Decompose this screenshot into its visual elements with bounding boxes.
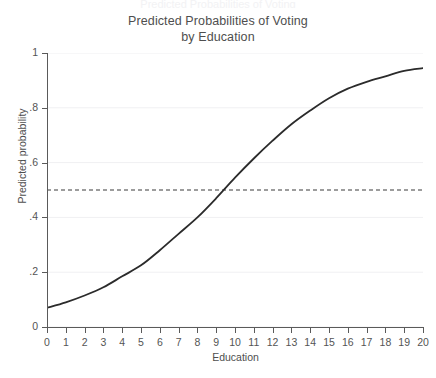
x-tick-mark-2 xyxy=(85,328,86,333)
y-axis-title: Predicted probability xyxy=(16,86,28,226)
y-tick-label-1: .2 xyxy=(8,265,38,277)
x-tick-mark-15 xyxy=(329,328,330,333)
plot-area xyxy=(47,53,423,327)
x-tick-mark-12 xyxy=(273,328,274,333)
x-axis-title: Education xyxy=(47,351,424,363)
y-tick-label-5: 1 xyxy=(8,46,38,58)
y-tick-mark-2 xyxy=(42,217,47,218)
clipped-header-text: Predicted Probabilities of Voting xyxy=(0,0,436,8)
y-tick-mark-5 xyxy=(42,53,47,54)
plot-canvas xyxy=(47,53,423,327)
x-tick-mark-11 xyxy=(254,328,255,333)
x-tick-mark-4 xyxy=(122,328,123,333)
y-tick-label-0: 0 xyxy=(8,320,38,332)
chart-figure: Predicted Probabilities of Voting Predic… xyxy=(0,0,436,378)
x-tick-mark-17 xyxy=(367,328,368,333)
y-tick-mark-4 xyxy=(42,108,47,109)
x-tick-mark-8 xyxy=(197,328,198,333)
y-axis-line xyxy=(47,53,48,328)
chart-title-line-2: by Education xyxy=(0,29,436,45)
x-tick-mark-6 xyxy=(160,328,161,333)
x-tick-mark-19 xyxy=(404,328,405,333)
y-tick-mark-3 xyxy=(42,163,47,164)
x-tick-mark-20 xyxy=(423,328,424,333)
x-tick-mark-1 xyxy=(66,328,67,333)
x-tick-mark-14 xyxy=(310,328,311,333)
x-tick-mark-16 xyxy=(348,328,349,333)
chart-title: Predicted Probabilities of Voting by Edu… xyxy=(0,13,436,45)
x-tick-mark-10 xyxy=(235,328,236,333)
y-tick-mark-1 xyxy=(42,272,47,273)
x-tick-mark-13 xyxy=(291,328,292,333)
x-tick-mark-7 xyxy=(179,328,180,333)
x-tick-mark-0 xyxy=(47,328,48,333)
chart-title-line-1: Predicted Probabilities of Voting xyxy=(0,13,436,29)
x-tick-mark-5 xyxy=(141,328,142,333)
x-tick-mark-18 xyxy=(385,328,386,333)
x-tick-mark-9 xyxy=(216,328,217,333)
x-tick-label-20: 20 xyxy=(410,336,436,348)
x-tick-mark-3 xyxy=(103,328,104,333)
